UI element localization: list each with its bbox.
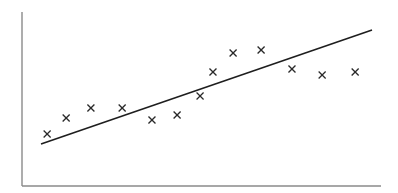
x-marker-icon (197, 93, 204, 100)
regression-line (41, 30, 372, 144)
x-marker-icon (319, 71, 326, 78)
x-marker-icon (148, 117, 155, 124)
x-marker-icon (63, 114, 70, 121)
x-marker-icon (209, 69, 216, 76)
x-marker-icon (87, 105, 94, 112)
x-marker-icon (352, 69, 359, 76)
x-marker-icon (174, 112, 181, 119)
x-marker-icon (288, 66, 295, 73)
x-marker-icon (258, 46, 265, 53)
x-marker-icon (44, 130, 51, 137)
data-points (44, 46, 359, 137)
x-marker-icon (230, 50, 237, 57)
x-marker-icon (119, 105, 126, 112)
axes (22, 12, 381, 186)
scatter-chart (0, 0, 398, 193)
